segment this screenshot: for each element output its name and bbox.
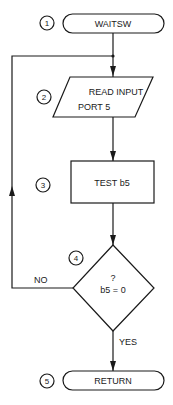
- step-number-2: 2: [37, 90, 51, 104]
- edge-label-yes: YES: [119, 337, 137, 347]
- process-label: TEST b5: [94, 178, 129, 188]
- step-number-3: 3: [36, 178, 50, 192]
- io-label-line2: PORT 5: [78, 102, 110, 112]
- step-number-2-text: 2: [42, 93, 47, 102]
- arrowhead-down-icon: [110, 151, 116, 161]
- terminal-waitsw-label: WAITSW: [95, 19, 132, 29]
- terminal-waitsw: WAITSW: [63, 14, 164, 33]
- decision-label-line1: ?: [110, 273, 115, 283]
- arrowhead-up-icon: [9, 186, 15, 196]
- decision-b5-equals-0: ? b5 = 0: [73, 245, 154, 331]
- flowchart: 1 WAITSW 2 READ INPUT PORT 5 3 TEST b5 4…: [0, 0, 173, 405]
- arrowhead-down-icon: [110, 361, 116, 371]
- step-number-5: 5: [40, 374, 54, 388]
- arrowhead-down-icon: [110, 235, 116, 245]
- step-number-1-text: 1: [45, 19, 50, 28]
- step-number-4-text: 4: [74, 254, 79, 263]
- step-number-4: 4: [69, 251, 83, 265]
- arrowhead-down-icon: [110, 66, 116, 76]
- terminal-return: RETURN: [63, 371, 164, 390]
- io-label-line1: READ INPUT: [89, 87, 144, 97]
- step-number-1: 1: [40, 16, 54, 30]
- step-number-3-text: 3: [41, 181, 46, 190]
- decision-label-line2: b5 = 0: [100, 285, 125, 295]
- terminal-return-label: RETURN: [94, 376, 132, 386]
- process-test-b5: TEST b5: [71, 161, 154, 203]
- step-number-5-text: 5: [45, 377, 50, 386]
- io-read-input-port-5: READ INPUT PORT 5: [53, 77, 153, 117]
- edge-label-no: NO: [34, 275, 48, 285]
